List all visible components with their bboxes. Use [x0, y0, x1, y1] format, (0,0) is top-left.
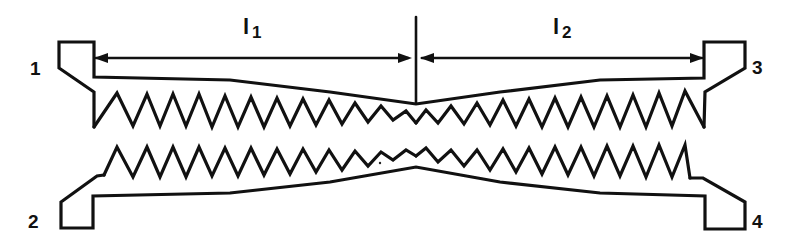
dimension-arrow-l1 [94, 53, 412, 63]
lower-conductor-outline [61, 167, 745, 229]
svg-text:l: l [553, 14, 559, 39]
svg-text:l: l [243, 14, 249, 39]
svg-text:1: 1 [252, 23, 261, 42]
port-2-label: 2 [28, 211, 39, 232]
stray-dot [379, 162, 381, 164]
lower-sawtooth-left [104, 147, 416, 177]
port-3-label: 3 [752, 57, 763, 78]
dimension-label-l1: l 1 [243, 14, 261, 42]
dimension-label-l2: l 2 [553, 14, 571, 42]
coupler-diagram: 1 2 3 4 l 1 l 2 [0, 0, 804, 245]
port-1-label: 1 [30, 58, 41, 79]
svg-text:2: 2 [562, 23, 571, 42]
dimension-arrow-l2 [420, 53, 704, 63]
port-4-label: 4 [752, 211, 763, 232]
